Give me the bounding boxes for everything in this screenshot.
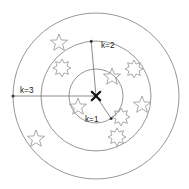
radius-endpoint-k3 xyxy=(12,95,15,98)
five-point-star-marker xyxy=(27,130,44,146)
burst-star-marker xyxy=(108,128,126,146)
five-point-star-marker xyxy=(69,98,86,114)
markers-layer xyxy=(27,34,150,146)
burst-star-marker xyxy=(125,60,143,78)
figure-root: k=1k=2k=3 xyxy=(0,0,189,189)
radius-label-k1: k=1 xyxy=(85,115,99,124)
knn-diagram-svg: k=1k=2k=3 xyxy=(0,0,189,189)
five-point-star-marker xyxy=(133,96,150,112)
burst-star-marker xyxy=(112,108,130,126)
radius-endpoint-k1 xyxy=(110,117,113,120)
burst-star-marker xyxy=(53,59,71,77)
radius-label-k2: k=2 xyxy=(101,41,115,50)
radius-endpoint-k2 xyxy=(90,40,93,43)
radius-arrows-layer xyxy=(12,40,113,120)
radius-label-k3: k=3 xyxy=(20,86,34,95)
radius-labels-layer: k=1k=2k=3 xyxy=(20,41,115,124)
five-point-star-marker xyxy=(50,34,67,50)
